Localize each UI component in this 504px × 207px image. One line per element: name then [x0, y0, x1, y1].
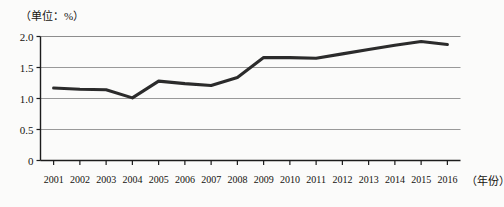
line-chart: （单位：%） 00.51.01.52.020012002200320042005… [0, 0, 504, 207]
x-tick-label-2007: 2007 [201, 174, 221, 185]
y-tick-label-1: 1.0 [20, 93, 34, 105]
x-axis-caption: （年份） [466, 172, 504, 188]
y-tick-label-1.5: 1.5 [20, 62, 34, 74]
x-tick-label-2013: 2013 [359, 174, 379, 185]
x-tick-label-2009: 2009 [254, 174, 274, 185]
x-tick-label-2016: 2016 [437, 174, 457, 185]
x-tick-label-2008: 2008 [227, 174, 247, 185]
x-tick-label-2004: 2004 [122, 174, 142, 185]
y-tick-label-0.5: 0.5 [20, 124, 34, 136]
chart-plot-area: 00.51.01.52.0200120022003200420052006200… [0, 0, 504, 207]
y-tick-label-2: 2.0 [20, 31, 34, 43]
x-tick-label-2005: 2005 [149, 174, 169, 185]
x-tick-label-2003: 2003 [96, 174, 116, 185]
x-tick-label-2002: 2002 [70, 174, 90, 185]
x-tick-label-2015: 2015 [411, 174, 431, 185]
y-tick-label-0: 0 [28, 155, 34, 167]
x-tick-label-2006: 2006 [175, 174, 195, 185]
x-tick-label-2011: 2011 [306, 174, 326, 185]
x-tick-label-2001: 2001 [44, 174, 64, 185]
x-tick-label-2010: 2010 [280, 174, 300, 185]
x-tick-label-2014: 2014 [385, 174, 405, 185]
data-series-line [54, 41, 448, 97]
x-tick-label-2012: 2012 [332, 174, 352, 185]
